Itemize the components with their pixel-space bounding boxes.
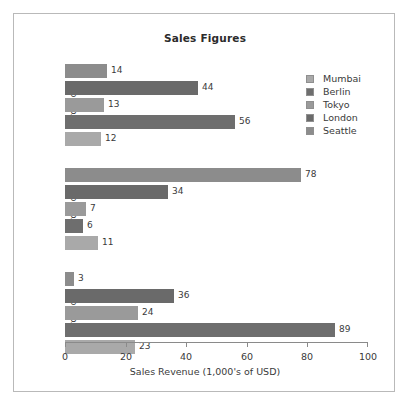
legend-item[interactable]: Seattle <box>306 124 390 137</box>
x-axis-tick-label: 0 <box>45 351 85 362</box>
x-axis-tick <box>367 342 368 347</box>
bar[interactable] <box>65 81 198 95</box>
bar[interactable] <box>65 64 107 78</box>
legend-label: Tokyo <box>323 98 350 111</box>
x-axis-title: Sales Revenue (1,000's of USD) <box>14 366 396 377</box>
bar-value-label: 56 <box>239 114 250 129</box>
bar-row[interactable]: 7 <box>65 202 368 216</box>
x-axis-line: 020406080100 <box>65 342 368 343</box>
legend-swatch-icon <box>306 88 314 96</box>
legend-label: Seattle <box>323 124 357 137</box>
bar[interactable] <box>65 202 86 216</box>
bar-row[interactable]: 34 <box>65 185 368 199</box>
bar-value-label: 36 <box>178 288 189 303</box>
bar-value-label: 89 <box>339 322 350 337</box>
bar-value-label: 78 <box>305 167 316 182</box>
bar[interactable] <box>65 168 301 182</box>
x-axis-tick-label: 80 <box>287 351 327 362</box>
bar-value-label: 7 <box>90 201 96 216</box>
bar[interactable] <box>65 323 335 337</box>
bar[interactable] <box>65 98 104 112</box>
bar[interactable] <box>65 306 138 320</box>
legend-swatch-icon <box>306 75 314 83</box>
bar-row[interactable]: 6 <box>65 219 368 233</box>
x-axis-tick <box>247 342 248 347</box>
bar-value-label: 11 <box>102 235 113 250</box>
bar-value-label: 12 <box>105 131 116 146</box>
bar-row[interactable]: 36 <box>65 289 368 303</box>
legend-item[interactable]: Berlin <box>306 85 390 98</box>
legend-swatch-icon <box>306 101 314 109</box>
x-axis-tick <box>65 342 66 347</box>
legend-label: Berlin <box>323 85 351 98</box>
bar-row[interactable]: 78 <box>65 168 368 182</box>
legend-item[interactable]: Mumbai <box>306 72 390 85</box>
legend-item[interactable]: Tokyo <box>306 98 390 111</box>
bar-row[interactable]: 11 <box>65 236 368 250</box>
bar-value-label: 3 <box>78 271 84 286</box>
bar-row[interactable]: 3 <box>65 272 368 286</box>
bar-row[interactable]: 89 <box>65 323 368 337</box>
x-axis-tick <box>126 342 127 347</box>
bar-value-label: 14 <box>111 63 122 78</box>
legend-item[interactable]: London <box>306 111 390 124</box>
x-axis-tick-label: 60 <box>227 351 267 362</box>
x-axis-tick-label: 100 <box>348 351 388 362</box>
legend-label: Mumbai <box>323 72 361 85</box>
x-axis-tick <box>307 342 308 347</box>
chart-title: Sales Figures <box>14 32 396 44</box>
chart-legend: MumbaiBerlinTokyoLondonSeattle <box>306 72 390 137</box>
legend-swatch-icon <box>306 127 314 135</box>
bar[interactable] <box>65 115 235 129</box>
chart-figure-frame: Sales Figures ProductC1444135612ProductB… <box>13 13 395 392</box>
bar-row[interactable]: 24 <box>65 306 368 320</box>
bar-value-label: 13 <box>108 97 119 112</box>
bar[interactable] <box>65 236 98 250</box>
bar[interactable] <box>65 185 168 199</box>
bar-value-label: 24 <box>142 305 153 320</box>
bar-value-label: 44 <box>202 80 213 95</box>
bar[interactable] <box>65 219 83 233</box>
bar[interactable] <box>65 289 174 303</box>
legend-swatch-icon <box>306 114 314 122</box>
x-axis-tick-label: 40 <box>166 351 206 362</box>
x-axis-tick <box>186 342 187 347</box>
x-axis-tick-label: 20 <box>106 351 146 362</box>
bar[interactable] <box>65 272 74 286</box>
bar[interactable] <box>65 132 101 146</box>
bar-value-label: 6 <box>87 218 93 233</box>
bar-value-label: 34 <box>172 184 183 199</box>
legend-label: London <box>323 111 358 124</box>
